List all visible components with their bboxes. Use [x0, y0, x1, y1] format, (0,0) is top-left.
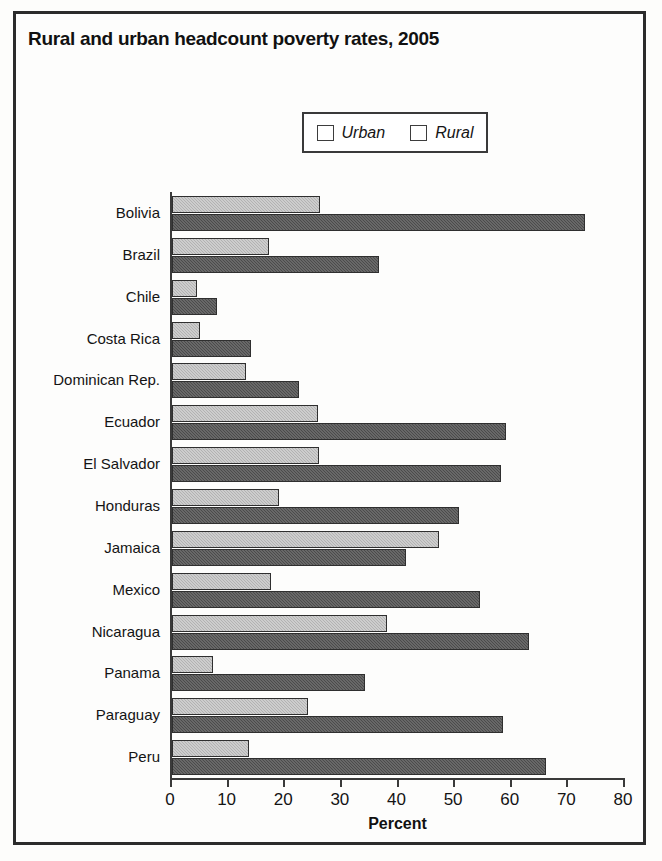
bar-rural-costa-rica [172, 340, 251, 357]
y-tick-label: Chile [126, 287, 160, 304]
bar-urban-jamaica [172, 531, 439, 548]
x-tick-label: 40 [387, 790, 406, 810]
bar-rural-honduras [172, 507, 459, 524]
bar-rural-panama [172, 674, 365, 691]
bar-rural-jamaica [172, 549, 406, 566]
bar-urban-ecuador [172, 405, 318, 422]
bar-rural-paraguay [172, 716, 503, 733]
legend-entry-urban: Urban [317, 124, 386, 142]
bar-urban-paraguay [172, 698, 308, 715]
y-tick-label: Dominican Rep. [53, 371, 160, 388]
x-tick [340, 778, 342, 787]
bar-urban-bolivia [172, 196, 320, 213]
bar-urban-peru [172, 740, 249, 757]
y-tick-label: Honduras [95, 496, 160, 513]
chart-figure: Rural and urban headcount poverty rates,… [0, 0, 662, 861]
y-tick-label: Jamaica [104, 538, 160, 555]
bar-urban-mexico [172, 573, 271, 590]
legend-entry-rural: Rural [410, 124, 473, 142]
bar-rural-ecuador [172, 423, 506, 440]
x-tick [510, 778, 512, 787]
x-tick-label: 0 [165, 790, 174, 810]
y-tick-label: El Salvador [83, 455, 160, 472]
x-tick-label: 50 [444, 790, 463, 810]
x-tick-label: 30 [330, 790, 349, 810]
bar-rural-brazil [172, 256, 379, 273]
x-tick [566, 778, 568, 787]
x-tick [283, 778, 285, 787]
bar-urban-chile [172, 280, 197, 297]
y-tick-label: Ecuador [104, 413, 160, 430]
y-tick-label: Mexico [112, 580, 160, 597]
legend-label-urban: Urban [342, 124, 386, 142]
bar-urban-dominican-rep [172, 363, 246, 380]
x-tick [170, 778, 172, 787]
bar-urban-el-salvador [172, 447, 319, 464]
bar-rural-mexico [172, 591, 480, 608]
y-tick-label: Costa Rica [87, 329, 160, 346]
bar-urban-nicaragua [172, 615, 387, 632]
y-axis-category-labels: BoliviaBrazilChileCosta RicaDominican Re… [0, 192, 160, 778]
y-tick-label: Brazil [122, 245, 160, 262]
y-tick-label: Panama [104, 664, 160, 681]
bar-urban-costa-rica [172, 322, 200, 339]
x-tick-label: 80 [614, 790, 633, 810]
y-tick-label: Peru [128, 748, 160, 765]
legend-swatch-rural [410, 125, 427, 141]
x-tick [453, 778, 455, 787]
x-tick [397, 778, 399, 787]
y-tick-label: Paraguay [96, 706, 160, 723]
x-tick-label: 60 [500, 790, 519, 810]
bar-rural-el-salvador [172, 465, 501, 482]
bar-rural-nicaragua [172, 633, 529, 650]
bar-rural-dominican-rep [172, 381, 299, 398]
bar-urban-honduras [172, 489, 279, 506]
chart-legend: Urban Rural [302, 112, 488, 153]
x-tick-label: 10 [217, 790, 236, 810]
bar-urban-panama [172, 656, 213, 673]
x-axis-label: Percent [170, 815, 625, 833]
y-tick-label: Nicaragua [92, 622, 160, 639]
plot-area [170, 192, 623, 778]
y-tick-label: Bolivia [116, 203, 160, 220]
x-tick-label: 20 [274, 790, 293, 810]
x-tick [227, 778, 229, 787]
bar-rural-chile [172, 298, 217, 315]
chart-title: Rural and urban headcount poverty rates,… [28, 28, 439, 50]
x-tick [623, 778, 625, 787]
bar-urban-brazil [172, 238, 269, 255]
legend-label-rural: Rural [435, 124, 473, 142]
bar-rural-peru [172, 758, 546, 775]
legend-swatch-urban [317, 125, 334, 141]
x-tick-label: 70 [557, 790, 576, 810]
bar-rural-bolivia [172, 214, 585, 231]
